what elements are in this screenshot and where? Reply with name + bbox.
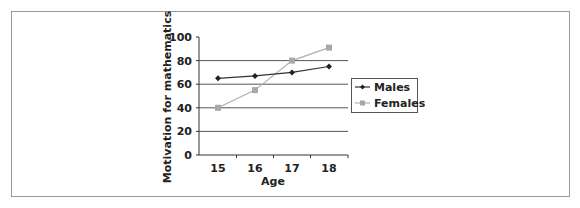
gridlines bbox=[199, 61, 348, 132]
x-axis bbox=[199, 155, 348, 158]
y-axis-title: Motivation for mathematics bbox=[161, 10, 174, 183]
legend-females: Females bbox=[374, 97, 426, 110]
legend-males: Males bbox=[374, 81, 411, 94]
legend: Males Females bbox=[352, 79, 426, 113]
y-tick-20: 20 bbox=[177, 125, 193, 138]
y-axis bbox=[196, 37, 199, 155]
line-chart: 0 20 40 60 80 100 15 16 17 18 Age Motiva… bbox=[0, 0, 580, 208]
x-tick-15: 15 bbox=[210, 162, 225, 175]
x-tick-18: 18 bbox=[321, 162, 336, 175]
y-tick-60: 60 bbox=[177, 78, 193, 91]
x-axis-title: Age bbox=[261, 175, 285, 188]
series-males bbox=[215, 64, 332, 82]
y-tick-80: 80 bbox=[177, 55, 193, 68]
x-tick-16: 16 bbox=[247, 162, 263, 175]
x-tick-17: 17 bbox=[284, 162, 299, 175]
y-tick-40: 40 bbox=[177, 102, 193, 115]
y-tick-0: 0 bbox=[184, 149, 192, 162]
